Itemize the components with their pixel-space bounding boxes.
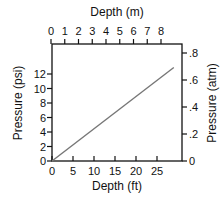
top-tick-label: 2	[75, 25, 81, 37]
top-tick-label: 3	[89, 25, 95, 37]
left-tick-label: 8	[40, 97, 46, 109]
right-tick-label: .4	[189, 101, 198, 113]
bottom-tick-label: 15	[109, 165, 121, 177]
bottom-axis-label: Depth (ft)	[92, 179, 142, 193]
data-series	[52, 67, 174, 161]
top-tick-label: 4	[103, 25, 109, 37]
left-axis-ticks: 024681012	[34, 68, 52, 167]
top-tick-label: 5	[117, 25, 123, 37]
left-tick-label: 4	[40, 126, 46, 138]
left-tick-label: 10	[34, 83, 46, 95]
top-tick-label: 6	[130, 25, 136, 37]
right-axis-label: Pressure (atm)	[205, 63, 219, 142]
bottom-tick-label: 20	[130, 165, 142, 177]
bottom-tick-label: 25	[151, 165, 163, 177]
pressure-depth-chart: 012345678 0510152025 024681012 0.2.4.6.8…	[0, 0, 223, 205]
left-tick-label: 0	[40, 155, 46, 167]
top-axis-ticks: 012345678	[48, 25, 164, 44]
top-tick-label: 8	[158, 25, 164, 37]
left-tick-label: 6	[40, 112, 46, 124]
top-tick-label: 7	[144, 25, 150, 37]
right-tick-label: .2	[189, 128, 198, 140]
top-tick-label: 0	[48, 25, 54, 37]
bottom-tick-label: 10	[88, 165, 100, 177]
right-axis-ticks: 0.2.4.6.8	[182, 47, 198, 167]
right-tick-label: 0	[189, 155, 195, 167]
plot-frame	[52, 44, 182, 161]
bottom-tick-label: 0	[49, 165, 55, 177]
left-tick-label: 12	[34, 68, 46, 80]
bottom-tick-label: 5	[70, 165, 76, 177]
left-tick-label: 2	[40, 141, 46, 153]
pressure-line	[52, 67, 174, 161]
bottom-axis-ticks: 0510152025	[49, 156, 163, 177]
right-tick-label: .6	[189, 74, 198, 86]
top-tick-label: 1	[62, 25, 68, 37]
left-axis-label: Pressure (psi)	[11, 66, 25, 141]
right-tick-label: .8	[189, 47, 198, 59]
top-axis-label: Depth (m)	[90, 5, 143, 19]
